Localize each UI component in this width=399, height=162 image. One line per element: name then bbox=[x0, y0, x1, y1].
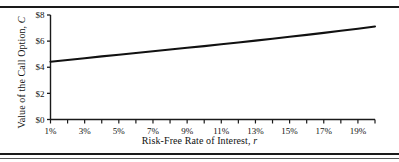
x-axis-title-text: Risk-Free Rate of Interest, bbox=[142, 135, 253, 146]
y-axis-tick-labels: $0$2$4$6$8 bbox=[36, 10, 46, 125]
y-tick-label: $6 bbox=[36, 36, 46, 46]
x-axis-tick-labels: 1%3%5%7%9%11%13%15%17%19% bbox=[45, 126, 367, 136]
x-tick-label: 13% bbox=[247, 126, 264, 136]
x-tick-label: 9% bbox=[181, 126, 194, 136]
x-axis-title: Risk-Free Rate of Interest, r bbox=[0, 135, 399, 146]
x-tick-label: 1% bbox=[45, 126, 58, 136]
figure-container: $0$2$4$6$8 1%3%5%7%9%11%13%15%17%19% Ris… bbox=[0, 0, 399, 162]
x-tick-label: 5% bbox=[113, 126, 126, 136]
data-series-line bbox=[51, 27, 376, 62]
x-tick-label: 11% bbox=[213, 126, 230, 136]
x-axis-title-symbol: r bbox=[253, 135, 257, 146]
y-tick-label: $2 bbox=[36, 89, 45, 99]
y-axis-title-text: Value of the Call Option, bbox=[16, 23, 27, 128]
y-tick-label: $4 bbox=[36, 62, 46, 72]
x-tick-label: 19% bbox=[350, 126, 367, 136]
y-tick-label: $0 bbox=[36, 115, 46, 125]
y-axis-title: Value of the Call Option, C bbox=[16, 8, 27, 138]
y-axis-title-symbol: C bbox=[16, 16, 27, 23]
x-tick-label: 7% bbox=[147, 126, 160, 136]
x-tick-label: 3% bbox=[79, 126, 92, 136]
x-tick-label: 17% bbox=[316, 126, 333, 136]
y-tick-label: $8 bbox=[36, 10, 46, 20]
x-tick-label: 15% bbox=[281, 126, 298, 136]
